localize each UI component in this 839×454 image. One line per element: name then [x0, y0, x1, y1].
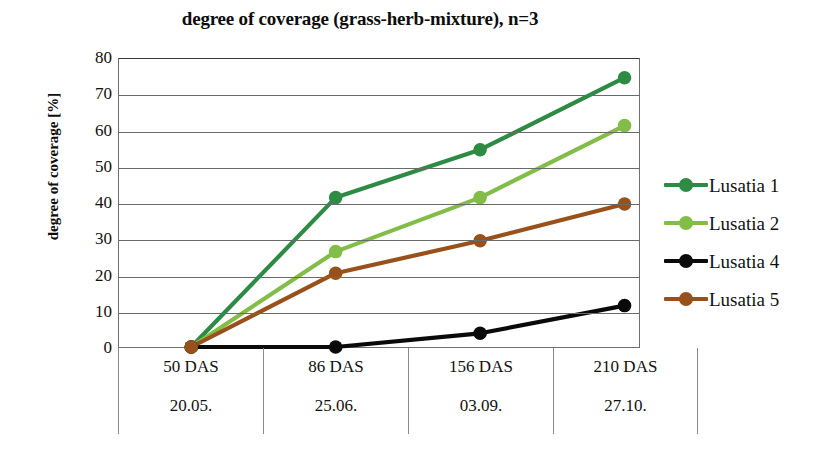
- legend-swatch: [664, 175, 708, 195]
- y-axis-tick-label: 10: [72, 303, 112, 320]
- data-point-marker: [473, 191, 487, 205]
- legend-label: Lusatia 4: [709, 252, 779, 271]
- data-point-marker: [329, 245, 343, 259]
- y-axis-tick-label: 0: [72, 339, 112, 356]
- y-axis-tick-label: 40: [72, 194, 112, 211]
- data-point-marker: [329, 266, 343, 280]
- legend-item[interactable]: Lusatia 2: [664, 210, 779, 236]
- legend-item[interactable]: Lusatia 5: [664, 286, 779, 312]
- legend-item[interactable]: Lusatia 1: [664, 172, 779, 198]
- legend-item[interactable]: Lusatia 4: [664, 248, 779, 274]
- y-axis-tick-labels: 01020304050607080: [62, 0, 112, 454]
- data-point-marker: [618, 299, 632, 313]
- legend-label: Lusatia 5: [709, 290, 779, 309]
- x-axis-category-label: 86 DAS: [264, 357, 408, 377]
- series-line: [191, 78, 624, 347]
- legend-label: Lusatia 2: [709, 214, 779, 233]
- x-axis-category-cell: 86 DAS25.06.: [263, 348, 408, 434]
- x-axis-category-date: 27.10.: [554, 396, 697, 416]
- y-axis-title: degree of coverage [%]: [45, 52, 62, 282]
- data-point-marker: [473, 143, 487, 157]
- legend-label: Lusatia 1: [709, 176, 779, 195]
- gridline: [119, 168, 639, 169]
- x-axis-category-table: 50 DAS20.05.86 DAS25.06.156 DAS03.09.210…: [118, 348, 648, 434]
- legend-marker-icon: [679, 292, 693, 306]
- x-axis-category-cell: 156 DAS03.09.: [408, 348, 553, 434]
- legend-swatch: [664, 289, 708, 309]
- gridline: [119, 277, 639, 278]
- gridline: [119, 95, 639, 96]
- legend-marker-icon: [679, 216, 693, 230]
- legend-marker-icon: [679, 254, 693, 268]
- data-point-marker: [618, 71, 632, 85]
- chart-legend: Lusatia 1Lusatia 2Lusatia 4Lusatia 5: [664, 172, 839, 322]
- x-axis-category-label: 50 DAS: [119, 357, 263, 377]
- x-axis-category-date: 25.06.: [264, 396, 408, 416]
- y-axis-tick-label: 70: [72, 85, 112, 102]
- x-axis-category-label: 156 DAS: [409, 357, 553, 377]
- y-axis-tick-label: 50: [72, 158, 112, 175]
- gridline: [119, 240, 639, 241]
- data-point-marker: [329, 191, 343, 205]
- chart-container: degree of coverage (grass-herb-mixture),…: [0, 0, 839, 454]
- x-axis-category-cell: 210 DAS27.10.: [553, 348, 698, 434]
- data-point-marker: [473, 327, 487, 341]
- legend-marker-icon: [679, 178, 693, 192]
- legend-swatch: [664, 251, 708, 271]
- x-axis-category-label: 210 DAS: [554, 357, 697, 377]
- plot-area: [118, 58, 640, 348]
- y-axis-tick-label: 80: [72, 49, 112, 66]
- gridline: [119, 204, 639, 205]
- x-axis-category-date: 03.09.: [409, 396, 553, 416]
- x-axis-category-cell: 50 DAS20.05.: [118, 348, 263, 434]
- y-axis-tick-label: 30: [72, 230, 112, 247]
- gridline: [119, 132, 639, 133]
- gridline: [119, 313, 639, 314]
- y-axis-tick-label: 20: [72, 267, 112, 284]
- series-lines-layer: [119, 59, 639, 347]
- x-axis-category-date: 20.05.: [119, 396, 263, 416]
- y-axis-tick-label: 60: [72, 122, 112, 139]
- chart-title: degree of coverage (grass-herb-mixture),…: [80, 8, 640, 30]
- legend-swatch: [664, 213, 708, 233]
- data-point-marker: [618, 119, 632, 133]
